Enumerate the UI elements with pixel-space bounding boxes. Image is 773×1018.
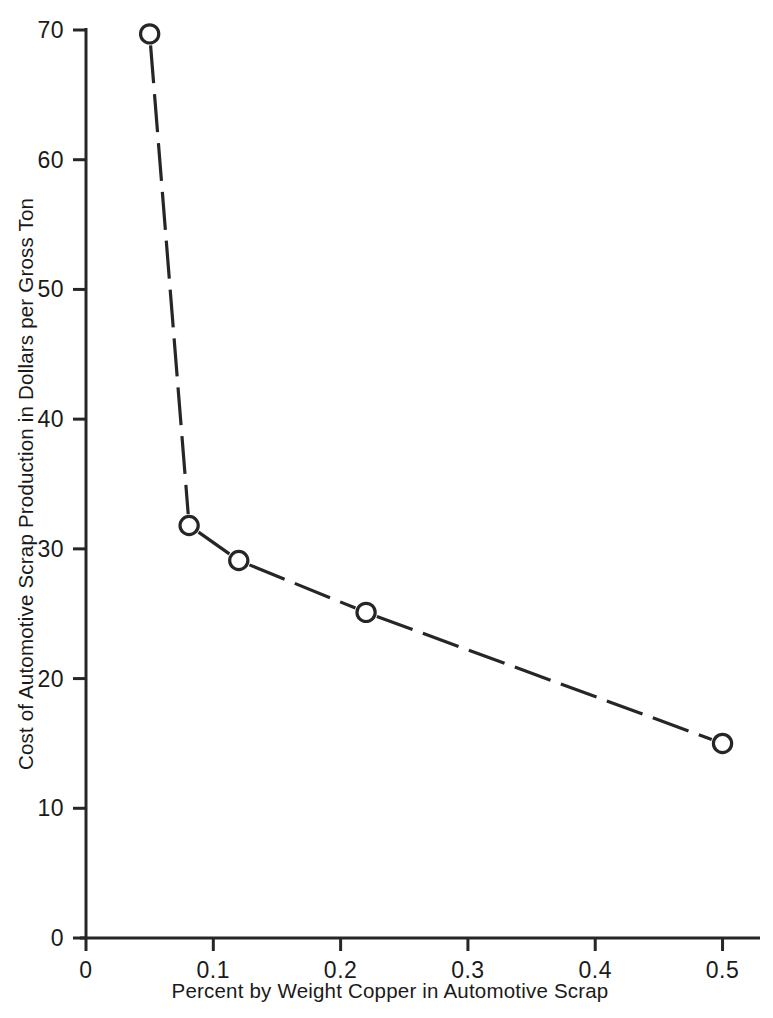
- data-markers-group: [141, 25, 732, 753]
- y-axis-tick-label: 10: [37, 795, 64, 821]
- y-axis-tick-label: 70: [37, 17, 64, 43]
- data-point-marker: [357, 603, 375, 621]
- y-axis-tick-label: 0: [51, 925, 64, 951]
- x-axis-tick-label: 0: [79, 957, 92, 983]
- y-axis-tick-label: 50: [37, 276, 64, 302]
- y-axis-tick-label: 40: [37, 406, 64, 432]
- y-axis-tick-labels: 010203040506070: [37, 17, 64, 951]
- y-axis-title: Cost of Automotive Scrap Production in D…: [14, 198, 37, 770]
- series-segment: [377, 616, 712, 739]
- data-point-marker: [713, 734, 731, 752]
- chart-figure: 010203040506070 00.10.20.30.40.5 Percent…: [0, 0, 773, 1018]
- series-segment: [249, 565, 355, 608]
- data-point-marker: [180, 516, 198, 534]
- series-segment: [199, 532, 230, 554]
- series-segment: [151, 45, 189, 514]
- y-axis-tick-label: 60: [37, 147, 64, 173]
- y-axis-tick-label: 30: [37, 536, 64, 562]
- y-axis-tick-label: 20: [37, 666, 64, 692]
- x-axis-ticks-group: [86, 938, 723, 951]
- y-axis-ticks-group: [73, 30, 86, 938]
- data-series-line: [151, 45, 712, 739]
- chart-svg: 010203040506070 00.10.20.30.40.5 Percent…: [0, 0, 773, 1018]
- x-axis-tick-label: 0.5: [706, 957, 739, 983]
- data-point-marker: [230, 551, 248, 569]
- data-point-marker: [141, 25, 159, 43]
- x-axis-title: Percent by Weight Copper in Automotive S…: [172, 979, 609, 1002]
